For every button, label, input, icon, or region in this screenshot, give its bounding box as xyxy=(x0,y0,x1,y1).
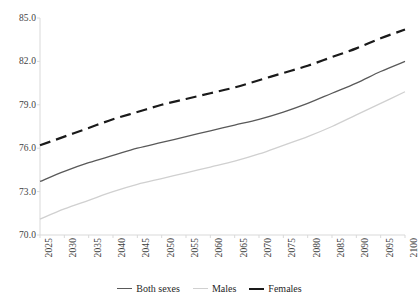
x-tick-label: 2025 xyxy=(44,238,54,257)
legend-label: Both sexes xyxy=(136,283,180,294)
x-tick-label: 2075 xyxy=(287,238,297,257)
x-axis-tick-labels: 2025203020352040204520502055206020652070… xyxy=(40,238,405,278)
x-tick-label: 2100 xyxy=(409,238,419,257)
legend-item-females[interactable]: Females xyxy=(249,283,301,294)
x-tick-label: 2045 xyxy=(141,238,151,257)
series-line-both-sexes xyxy=(40,61,405,181)
x-tick-label: 2085 xyxy=(336,238,346,257)
series-lines xyxy=(40,30,405,220)
x-tick-label: 2090 xyxy=(360,238,370,257)
x-tick-label: 2040 xyxy=(117,238,127,257)
x-tick-label: 2055 xyxy=(190,238,200,257)
x-tick-label: 2035 xyxy=(93,238,103,257)
legend-swatch-icon xyxy=(117,288,132,289)
x-tick-label: 2050 xyxy=(166,238,176,257)
legend-label: Females xyxy=(268,283,301,294)
life-expectancy-line-chart: 85.082.079.076.073.070.0 202520302035204… xyxy=(0,0,419,304)
x-tick-label: 2030 xyxy=(68,238,78,257)
series-line-males xyxy=(40,92,405,219)
legend-item-both-sexes[interactable]: Both sexes xyxy=(117,283,180,294)
legend-swatch-icon xyxy=(193,288,208,289)
x-tick-label: 2065 xyxy=(239,238,249,257)
legend-item-males[interactable]: Males xyxy=(193,283,236,294)
legend-label: Males xyxy=(212,283,236,294)
legend-swatch-icon xyxy=(249,288,264,290)
x-tick-label: 2095 xyxy=(385,238,395,257)
x-tick-label: 2070 xyxy=(263,238,273,257)
x-tick-label: 2060 xyxy=(214,238,224,257)
chart-legend: Both sexesMalesFemales xyxy=(0,283,419,294)
x-tick-label: 2080 xyxy=(312,238,322,257)
